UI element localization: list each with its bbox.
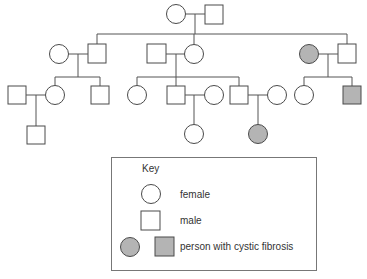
male-symbol <box>230 86 248 104</box>
female-symbol <box>185 45 204 64</box>
affected-male-symbol <box>343 86 361 104</box>
female-symbol <box>46 86 65 105</box>
generation-4 <box>27 125 268 145</box>
female-symbol <box>167 5 186 24</box>
male-symbol <box>167 86 185 104</box>
key-box: Key female male person with cystic fibro… <box>112 158 317 271</box>
male-key-icon <box>141 211 160 230</box>
male-symbol <box>205 5 223 24</box>
male-symbol <box>88 44 106 63</box>
affected-female-symbol <box>249 125 268 144</box>
female-symbol <box>50 45 69 64</box>
male-symbol <box>27 126 45 144</box>
affected-female-symbol <box>300 45 319 64</box>
female-symbol <box>128 86 147 105</box>
female-symbol <box>185 125 204 144</box>
generation-1 <box>97 5 347 45</box>
female-symbol <box>295 86 314 105</box>
male-symbol <box>338 44 356 63</box>
key-label-female: female <box>180 189 210 200</box>
pedigree-diagram: Key female male person with cystic fibro… <box>0 0 367 279</box>
generation-3 <box>8 86 361 127</box>
key-label-male: male <box>180 215 202 226</box>
female-symbol <box>205 86 224 105</box>
male-symbol <box>8 86 26 104</box>
female-symbol <box>268 86 287 105</box>
key-label-affected: person with cystic fibrosis <box>180 241 293 252</box>
key-title: Key <box>142 163 159 174</box>
male-symbol <box>147 44 166 63</box>
affected-female-key-icon <box>121 238 140 257</box>
female-key-icon <box>142 185 161 204</box>
affected-male-key-icon <box>155 237 174 256</box>
generation-2 <box>50 44 357 86</box>
male-symbol <box>91 86 109 104</box>
